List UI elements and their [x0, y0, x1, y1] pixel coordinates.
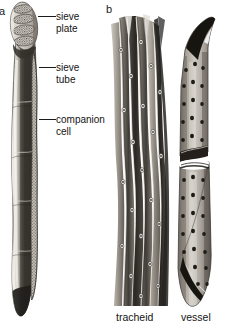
label-companion-cell: companion cell	[56, 114, 105, 137]
companion-cell	[31, 52, 37, 300]
panel-b-letter: b	[106, 4, 112, 15]
label-sieve-plate: sieve plate	[56, 11, 79, 34]
label-sieve-tube: sieve tube	[56, 62, 79, 85]
vessel-upper-segment	[179, 16, 222, 162]
leader-line-sieve-tube	[39, 67, 56, 68]
label-vessel: vessel	[181, 312, 211, 323]
illustration-tracheid	[108, 14, 170, 310]
figure-plant-conducting-cells: a b sieve plate sieve tube companion cel…	[0, 0, 227, 329]
leader-line-companion-cell	[39, 119, 56, 120]
leader-line-sieve-plate	[38, 16, 56, 17]
label-tracheid: tracheid	[116, 312, 153, 323]
illustration-vessel	[168, 16, 227, 310]
illustration-sieve-tube	[0, 0, 70, 320]
sieve-plate-cap	[8, 0, 40, 59]
panel-a-letter: a	[0, 6, 5, 17]
vessel-lower-segment	[178, 160, 212, 310]
